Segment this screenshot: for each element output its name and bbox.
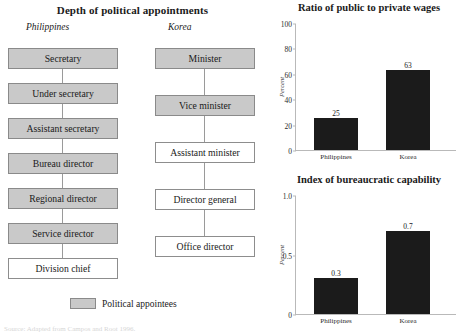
org-connector — [62, 104, 63, 118]
org-node[interactable]: Director general — [155, 189, 255, 210]
legend-label: Political appointees — [102, 299, 177, 309]
chart-index-bureaucratic-capability: Index of bureaucratic capability Percent… — [265, 172, 473, 333]
org-connector — [62, 244, 63, 258]
y-axis-tick-label: 0.5 — [283, 251, 292, 260]
org-node[interactable]: Secretary — [8, 48, 118, 69]
y-axis-tick-label: 40 — [285, 96, 293, 105]
bar[interactable] — [386, 231, 430, 314]
org-node[interactable]: Under secretary — [8, 83, 118, 104]
y-axis-tick-mark — [293, 125, 296, 126]
org-node[interactable]: Assistant minister — [155, 142, 255, 163]
plot-area-capability: Percent 00.51.00.3Philippines0.7Korea — [295, 196, 456, 315]
y-axis-tick-label: 0 — [288, 311, 292, 320]
y-axis-tick-label: 80 — [285, 45, 293, 54]
plot-area-wages: Percent 02040608010025Philippines63Korea — [295, 24, 456, 151]
bar-value-label: 0.3 — [331, 269, 340, 278]
bar-value-label: 0.7 — [403, 222, 412, 231]
legend-swatch-political-appointees — [70, 298, 96, 309]
source-note: Source: Adapted from Campos and Root 199… — [4, 325, 135, 333]
org-node[interactable]: Regional director — [8, 188, 118, 209]
x-axis-tick-label: Korea — [399, 317, 416, 325]
org-connector — [204, 163, 205, 189]
y-axis-tick-mark — [293, 74, 296, 75]
org-connector — [62, 69, 63, 83]
org-connector — [204, 210, 205, 236]
y-axis-tick-label: 0 — [288, 147, 292, 156]
org-node[interactable]: Bureau director — [8, 153, 118, 174]
x-axis-tick-label: Korea — [399, 153, 416, 161]
y-axis-tick-mark — [293, 315, 296, 316]
org-connector — [62, 209, 63, 223]
org-node[interactable]: Vice minister — [155, 95, 255, 116]
bar[interactable] — [314, 278, 358, 314]
y-axis-tick-mark — [293, 196, 296, 197]
column-heading-philippines: Philippines — [26, 22, 69, 32]
org-chart-title: Depth of political appointments — [0, 4, 265, 16]
org-connector — [62, 174, 63, 188]
x-axis-tick-label: Philippines — [320, 317, 352, 325]
y-axis-label-wages: Percent — [278, 77, 285, 97]
y-axis-tick-mark — [293, 151, 296, 152]
chart-ratio-public-private-wages: Ratio of public to private wages Percent… — [265, 0, 473, 172]
y-axis-tick-label: 20 — [285, 121, 293, 130]
y-axis-tick-mark — [293, 255, 296, 256]
org-chart-panel: Depth of political appointments Philippi… — [0, 0, 265, 333]
chart-title-wages: Ratio of public to private wages — [265, 2, 473, 13]
org-node[interactable]: Minister — [155, 48, 255, 69]
column-heading-korea: Korea — [168, 22, 191, 32]
org-node[interactable]: Service director — [8, 223, 118, 244]
org-connector — [204, 116, 205, 142]
y-axis-tick-mark — [293, 24, 296, 25]
org-connector — [62, 139, 63, 153]
org-node[interactable]: Office director — [155, 236, 255, 257]
y-axis-tick-label: 1.0 — [283, 192, 292, 201]
org-node[interactable]: Assistant secretary — [8, 118, 118, 139]
legend: Political appointees — [70, 298, 177, 309]
bar-value-label: 25 — [332, 109, 340, 118]
chart-title-capability: Index of bureaucratic capability — [265, 174, 473, 185]
x-axis-tick-label: Philippines — [320, 153, 352, 161]
y-axis-tick-mark — [293, 49, 296, 50]
bar-value-label: 63 — [404, 61, 412, 70]
org-connector — [204, 69, 205, 95]
bar[interactable] — [386, 70, 430, 150]
y-axis-tick-mark — [293, 100, 296, 101]
y-axis-tick-label: 60 — [285, 70, 293, 79]
bar[interactable] — [314, 118, 358, 150]
y-axis-tick-label: 100 — [281, 20, 292, 29]
org-node[interactable]: Division chief — [8, 258, 118, 279]
